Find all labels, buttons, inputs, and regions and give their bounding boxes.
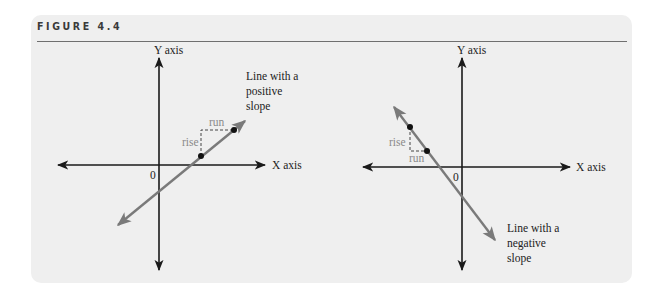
origin-label: 0 (453, 171, 459, 183)
point-lower (424, 148, 430, 154)
x-axis-label: X axis (272, 159, 302, 171)
line-label-3: slope (507, 252, 531, 265)
run-label: run (209, 116, 225, 128)
line-label-1: Line with a (507, 222, 559, 234)
y-axis-label: Y axis (457, 44, 487, 56)
point-upper (231, 127, 237, 133)
origin-label: 0 (150, 169, 156, 181)
point-upper (407, 124, 413, 130)
point-lower (198, 153, 204, 159)
line-label-2: positive (246, 85, 282, 98)
slope-diagrams: Y axis X axis 0 rise run Line with a pos… (0, 0, 658, 298)
rise-label: rise (389, 136, 406, 148)
negative-slope-diagram: Y axis X axis 0 rise run Line with a neg… (363, 44, 606, 270)
line-label-1: Line with a (246, 70, 298, 82)
run-label: run (409, 152, 425, 164)
positive-slope-diagram: Y axis X axis 0 rise run Line with a pos… (58, 44, 302, 270)
line-label-2: negative (507, 237, 546, 250)
x-axis-label: X axis (576, 161, 606, 173)
line-label-3: slope (246, 100, 270, 113)
rise-label: rise (182, 136, 199, 148)
y-axis-label: Y axis (154, 44, 184, 56)
